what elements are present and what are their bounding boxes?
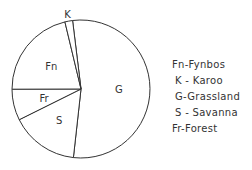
- legend-entry-karoo: K - Karoo: [172, 73, 240, 89]
- legend-entry-fynbos: Fn-Fynbos: [172, 57, 240, 73]
- slice-label-grassland: G: [115, 84, 123, 95]
- legend-entry-savanna: S - Savanna: [172, 105, 240, 121]
- pie-slice-grassland: [73, 20, 150, 158]
- slice-label-savanna: S: [56, 115, 62, 126]
- slice-label-forest: Fr: [40, 93, 50, 104]
- slice-label-karoo: K: [64, 9, 71, 20]
- legend: Fn-Fynbos K - Karoo G-Grassland S - Sava…: [172, 57, 240, 137]
- legend-entry-grassland: G-Grassland: [172, 89, 240, 105]
- legend-entry-forest: Fr-Forest: [172, 121, 240, 137]
- slice-label-fynbos: Fn: [45, 61, 57, 72]
